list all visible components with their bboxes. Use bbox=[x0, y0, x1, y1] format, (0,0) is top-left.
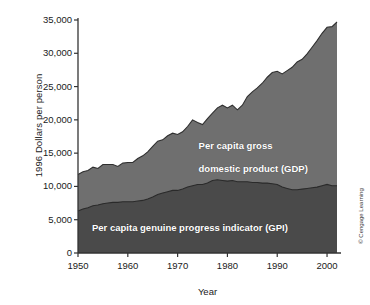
y-axis-tick-label: 25,000 bbox=[26, 82, 72, 92]
gpi-series-label: Per capita genuine progress indicator (G… bbox=[92, 222, 288, 234]
x-axis-tick-label: 1980 bbox=[207, 260, 247, 271]
x-axis-title: Year bbox=[78, 286, 337, 297]
y-axis-tick-label: 10,000 bbox=[26, 181, 72, 191]
x-axis-tick-label: 1970 bbox=[158, 260, 198, 271]
gdp-series-label-line2: domestic product (GDP) bbox=[199, 163, 308, 174]
x-axis-tick-label: 1960 bbox=[108, 260, 148, 271]
gdp-series-label-line1: Per capita gross bbox=[199, 140, 273, 151]
y-axis-tick-label: 20,000 bbox=[26, 115, 72, 125]
y-axis-tick-label: 0 bbox=[26, 248, 72, 258]
y-axis-tick-label: 15,000 bbox=[26, 148, 72, 158]
y-axis-tick-label: 5,000 bbox=[26, 215, 72, 225]
gdp-series-label: Per capita gross domestic product (GDP) bbox=[188, 128, 308, 186]
chart-figure: 1996 Dollars per person 05,00010,00015,0… bbox=[0, 0, 370, 305]
x-axis-tick-label: 2000 bbox=[307, 260, 347, 271]
x-axis-tick-label: 1950 bbox=[58, 260, 98, 271]
y-axis-tick-label: 35,000 bbox=[26, 15, 72, 25]
x-axis-tick-label: 1990 bbox=[257, 260, 297, 271]
y-axis-tick-label: 30,000 bbox=[26, 48, 72, 58]
copyright-credit: © Cengage Learning bbox=[358, 171, 364, 261]
